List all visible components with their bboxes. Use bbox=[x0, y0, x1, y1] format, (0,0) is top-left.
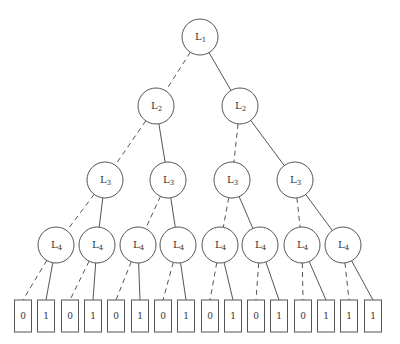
edge-left-dashed bbox=[210, 263, 217, 300]
edge-right-solid bbox=[99, 198, 103, 227]
edge-right-solid bbox=[181, 263, 186, 300]
tree-node-L1: L1 bbox=[182, 19, 218, 55]
tree-node-L3: L3 bbox=[150, 162, 186, 198]
leaf-value: 0 bbox=[67, 311, 73, 321]
leaf-value: 0 bbox=[253, 311, 259, 321]
tree-node-L4: L4 bbox=[79, 227, 115, 263]
leaf-box: 1 bbox=[38, 300, 55, 332]
edge-left-dashed bbox=[234, 124, 238, 162]
leaf-box: 0 bbox=[108, 300, 125, 332]
edge-left-dashed bbox=[146, 196, 161, 228]
tree-node-L4: L4 bbox=[38, 227, 74, 263]
tree-node-L2: L2 bbox=[138, 88, 174, 124]
leaf-value: 0 bbox=[160, 311, 166, 321]
tree-node-L4: L4 bbox=[160, 227, 196, 263]
edge-right-solid bbox=[171, 198, 176, 227]
leaf-value: 1 bbox=[323, 311, 329, 321]
leaf-value: 0 bbox=[300, 311, 306, 321]
edge-right-solid bbox=[239, 197, 253, 229]
edge-left-dashed bbox=[23, 260, 47, 300]
edge-right-solid bbox=[309, 261, 326, 300]
leaf-box: 0 bbox=[295, 300, 312, 332]
leaf-box: 1 bbox=[271, 300, 288, 332]
tree-nodes: L1L2L2L3L3L3L3L4L4L4L4L4L4L4L4 bbox=[38, 19, 361, 263]
leaf-box: 0 bbox=[62, 300, 79, 332]
edge-right-solid bbox=[224, 263, 233, 300]
edge-right-solid bbox=[159, 124, 165, 162]
leaf-box: 1 bbox=[365, 300, 382, 332]
leaf-box: 1 bbox=[318, 300, 335, 332]
leaf-box: 1 bbox=[132, 300, 149, 332]
leaf-box: 0 bbox=[15, 300, 32, 332]
edge-left-dashed bbox=[67, 194, 94, 230]
tree-node-L4: L4 bbox=[202, 227, 238, 263]
edge-right-solid bbox=[266, 262, 279, 300]
tree-node-L2: L2 bbox=[222, 88, 258, 124]
leaf-value: 1 bbox=[346, 311, 352, 321]
edge-right-solid bbox=[352, 261, 373, 300]
leaf-value: 0 bbox=[207, 311, 213, 321]
leaf-value: 0 bbox=[113, 311, 119, 321]
tree-node-L4: L4 bbox=[284, 227, 320, 263]
leaf-values: 0101010101010111 bbox=[15, 300, 382, 332]
edge-right-solid bbox=[251, 120, 285, 165]
edge-right-solid bbox=[306, 194, 333, 230]
edge-left-dashed bbox=[345, 263, 349, 300]
tree-node-L3: L3 bbox=[214, 162, 250, 198]
leaf-box: 1 bbox=[85, 300, 102, 332]
edge-right-solid bbox=[46, 263, 53, 300]
edge-left-dashed bbox=[256, 263, 259, 300]
edge-left-dashed bbox=[166, 52, 191, 91]
leaf-value: 0 bbox=[20, 311, 26, 321]
edge-left-dashed bbox=[223, 198, 228, 228]
edge-left-dashed bbox=[70, 261, 89, 300]
leaf-box: 1 bbox=[341, 300, 358, 332]
tree-node-L4: L4 bbox=[325, 227, 361, 263]
edge-right-solid bbox=[93, 263, 96, 300]
edge-left-dashed bbox=[297, 198, 300, 227]
leaf-value: 1 bbox=[90, 311, 96, 321]
binary-tree-diagram: L1L2L2L3L3L3L3L4L4L4L4L4L4L4L4 010101010… bbox=[0, 0, 400, 344]
leaf-box: 0 bbox=[155, 300, 172, 332]
edge-left-dashed bbox=[115, 121, 146, 165]
leaf-value: 1 bbox=[183, 311, 189, 321]
leaf-value: 1 bbox=[370, 311, 376, 321]
leaf-value: 1 bbox=[276, 311, 282, 321]
tree-node-L3: L3 bbox=[87, 162, 123, 198]
tree-edges bbox=[23, 52, 373, 300]
leaf-box: 1 bbox=[178, 300, 195, 332]
leaf-value: 1 bbox=[137, 311, 143, 321]
tree-node-L4: L4 bbox=[242, 227, 278, 263]
leaf-value: 1 bbox=[230, 311, 236, 321]
leaf-box: 0 bbox=[248, 300, 265, 332]
edge-right-solid bbox=[139, 263, 140, 300]
tree-node-L4: L4 bbox=[120, 227, 156, 263]
edge-right-solid bbox=[209, 53, 231, 91]
leaf-box: 0 bbox=[202, 300, 219, 332]
leaf-value: 1 bbox=[43, 311, 49, 321]
edge-left-dashed bbox=[116, 262, 131, 300]
edge-left-dashed bbox=[163, 262, 173, 300]
edge-left-dashed bbox=[302, 263, 303, 300]
leaf-box: 1 bbox=[225, 300, 242, 332]
tree-node-L3: L3 bbox=[277, 162, 313, 198]
